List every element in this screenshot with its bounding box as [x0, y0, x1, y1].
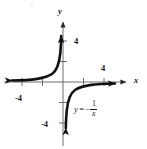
- equation-minus-sign: −: [85, 104, 90, 114]
- scan-artifact: y: [30, 0, 46, 7]
- x-tick-label-4: 4: [101, 64, 105, 73]
- equation-lhs: y: [74, 104, 78, 114]
- equation-denominator: x: [91, 110, 97, 119]
- y-tick-label-4: 4: [74, 37, 78, 46]
- equation-annotation: y = − 1 x: [74, 100, 97, 118]
- graph-canvas: [0, 0, 147, 149]
- equation-fraction: 1 x: [90, 100, 97, 118]
- graph-figure: y y x 4 -4 4 -4 y = − 1 x: [0, 0, 147, 149]
- y-axis-label: y: [58, 7, 62, 16]
- x-tick-label-negative-4: -4: [15, 94, 22, 103]
- equation-relation: =: [79, 104, 84, 114]
- equation-numerator: 1: [91, 100, 97, 109]
- x-axis-label: x: [134, 76, 138, 85]
- curve-branch-upper-left: [12, 36, 61, 81]
- y-tick-label-negative-4: -4: [41, 120, 48, 129]
